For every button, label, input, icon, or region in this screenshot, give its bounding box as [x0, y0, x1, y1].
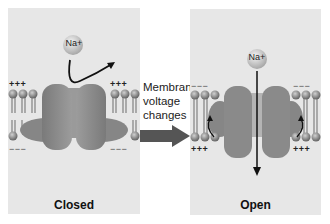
channel-protein-right	[76, 84, 106, 150]
channel-protein-left	[42, 84, 72, 150]
open-channel-illustration	[190, 9, 321, 215]
closed-label: Closed	[8, 198, 140, 212]
transition-arrow-icon	[138, 124, 198, 148]
bottom-charges-right: + + +	[293, 144, 309, 154]
top-charges-left: + + +	[9, 79, 25, 89]
transition-line-3: changes	[143, 108, 193, 122]
bottom-charges-left: − − −	[9, 144, 25, 154]
transition-line-1: Membrane	[143, 80, 193, 94]
channel-protein-right	[262, 86, 290, 158]
sodium-ion-label: Na+	[64, 38, 84, 48]
open-channel-panel: Na+ − − − − − − + + + + + + Open	[190, 9, 321, 215]
transition-line-2: voltage	[143, 94, 193, 108]
closed-channel-panel: Na+ + + + + + + − − − − − − Closed	[8, 8, 140, 214]
ion-deflected-arrow	[69, 60, 112, 82]
top-charges-right: + + +	[110, 79, 126, 89]
sodium-ion-label: Na+	[247, 52, 267, 62]
top-charges-right: − − −	[293, 81, 309, 91]
bottom-charges-left: + + +	[191, 144, 207, 154]
transition-caption: Membrane voltage changes	[143, 80, 193, 122]
top-charges-left: − − −	[191, 81, 207, 91]
bottom-charges-right: − − −	[110, 144, 126, 154]
open-label: Open	[190, 198, 321, 212]
channel-protein-left	[224, 86, 252, 158]
